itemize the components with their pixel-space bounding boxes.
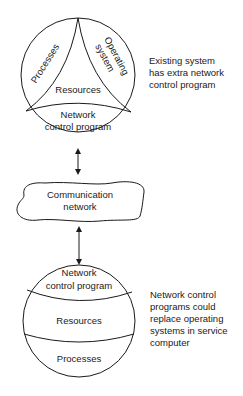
service-computer-annotation: Network control programs could replace o… (150, 289, 228, 349)
communication-network-cloud: Communication network (17, 182, 144, 222)
ncp-label-line2: control program (45, 121, 112, 132)
ncp-label-line1: Network (61, 109, 96, 120)
resources-label: Resources (55, 84, 101, 95)
bottom-processes-label: Processes (57, 353, 102, 364)
bottom-ncp-label-line1: Network (62, 267, 97, 278)
bottom-ncp-label-line2: control program (46, 280, 113, 291)
network-label-line1: Communication (47, 189, 113, 200)
service-computer-circle: Network control program Resources Proces… (23, 265, 135, 377)
existing-system-annotation: Existing system has extra network contro… (149, 55, 224, 91)
network-label-line2: network (63, 201, 97, 212)
bottom-resources-label: Resources (56, 315, 102, 326)
existing-system-circle: Processes Operating system Resources Net… (21, 18, 135, 132)
